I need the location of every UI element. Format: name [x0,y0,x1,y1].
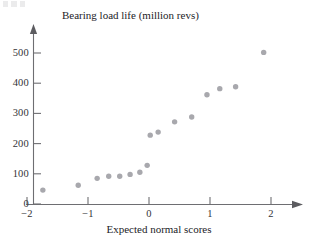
y-axis-ticks [34,53,42,204]
x-tick-label: 2 [256,209,286,220]
x-tick-label: 0 [134,209,164,220]
y-tick-label: 500 [13,48,29,59]
y-tick-label: 100 [13,169,29,180]
data-point [204,92,209,97]
scatter-plot-canvas [0,0,318,243]
x-axis-arrowhead [292,201,303,209]
x-tick-label: 1 [195,209,225,220]
data-point [217,86,222,91]
data-point [261,50,266,55]
data-point [172,119,177,124]
y-tick-label: 200 [13,139,29,150]
x-tick-label: −2 [12,209,42,220]
data-point [127,172,132,177]
y-axis-arrowhead [30,24,37,34]
data-point [137,170,142,175]
data-point [148,132,153,137]
data-point [233,84,238,89]
data-point [106,174,111,179]
data-point [76,183,81,188]
y-tick-label: 300 [13,108,29,119]
data-point [117,174,122,179]
x-axis-ticks [27,197,271,205]
figure-container: Bearing load life (million revs) 0100200… [0,0,318,243]
x-axis-title: Expected normal scores [0,224,318,235]
data-point [189,114,194,119]
x-tick-label: −1 [73,209,103,220]
data-point [155,129,160,134]
data-point [40,187,45,192]
data-points-group [40,50,266,193]
y-tick-label: 400 [13,78,29,89]
data-point [94,176,99,181]
data-point [144,163,149,168]
